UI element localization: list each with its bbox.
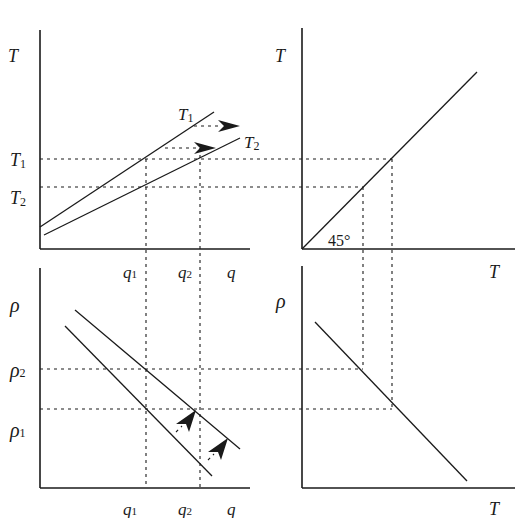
tr-45-degree-line	[302, 72, 477, 249]
arrow-right-icon	[218, 120, 240, 132]
bottom-q-labels: q1 q2 q	[123, 500, 236, 518]
tl-curve-label-T1: T1	[178, 105, 193, 125]
tl-tick-T2: T2	[10, 188, 26, 209]
tl-curve-label-T2: T2	[244, 133, 259, 153]
bl-curve-upper	[75, 310, 240, 449]
bl-curve-lower	[65, 326, 212, 476]
panel-top-right: T T 45°	[275, 28, 515, 282]
tr-y-axis-label: T	[275, 46, 287, 66]
bot-tick-q1: q1	[123, 500, 137, 518]
bl-y-axis-label: ρ	[9, 294, 20, 317]
angle-label: 45°	[328, 232, 350, 249]
dashed-guides	[40, 148, 392, 488]
bot-tick-q: q	[227, 500, 236, 518]
bl-shift-dash-2	[208, 454, 214, 460]
arrow-up-right-icon	[208, 438, 228, 460]
tl-curve-T1	[40, 112, 214, 227]
bl-tick-rho1: ρ1	[9, 419, 26, 442]
four-quadrant-diagram: T T1 T2 T1 T2 T T 45° ρ ρ2 ρ1 ρ T	[0, 0, 523, 518]
panel-bottom-right: ρ T	[275, 266, 515, 518]
bl-tick-rho2: ρ2	[9, 359, 26, 382]
mid-tick-q1: q1	[123, 263, 137, 282]
bl-shift-dash-1	[176, 426, 182, 432]
tr-x-axis-label: T	[489, 262, 501, 282]
bot-tick-q2: q2	[178, 500, 192, 518]
mid-tick-q: q	[227, 263, 236, 282]
mid-tick-q2: q2	[178, 263, 192, 282]
tl-tick-T1: T1	[10, 150, 26, 171]
mid-q-labels: q1 q2 q	[123, 263, 236, 282]
arrow-up-right-icon	[176, 410, 196, 432]
panel-top-left: T T1 T2 T1 T2	[8, 30, 259, 249]
br-y-axis-label: ρ	[275, 290, 286, 313]
tl-y-axis-label: T	[8, 46, 20, 66]
br-curve	[315, 322, 467, 481]
br-x-axis-label: T	[489, 499, 501, 518]
panel-bottom-left: ρ ρ2 ρ1	[9, 268, 250, 488]
